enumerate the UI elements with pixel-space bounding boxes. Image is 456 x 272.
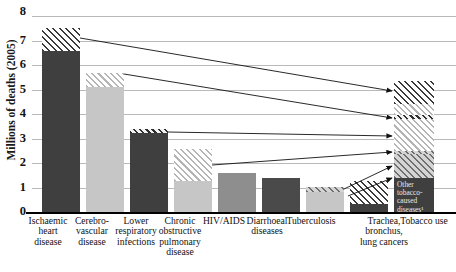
tobacco-segment-other: Other tobacco- caused diseases¹ (394, 178, 434, 214)
bar-segment-base (306, 192, 344, 213)
label-line: diseases (230, 226, 304, 236)
bar-hiv-aids (218, 173, 256, 213)
y-tick-8: 8 (8, 5, 26, 17)
bar-cerebrovascular-disease (86, 73, 124, 213)
bar-lower-respiratory-infections (130, 131, 168, 213)
bar-chronic-obstructive-pulmonary-disease (174, 149, 212, 213)
bar-ischaemic-heart-disease (42, 28, 80, 213)
y-axis-title: Millions of deaths (2005) (5, 25, 17, 175)
bar-segment-tobacco (42, 28, 80, 51)
bar-tuberculosis (306, 187, 344, 213)
bar-segment-base (174, 181, 212, 213)
tobacco-segment-copd (394, 119, 434, 151)
bar-segment-tobacco (174, 149, 212, 181)
y-tick-4: 4 (8, 107, 26, 119)
bar-diarrhoeal-diseases (262, 178, 300, 214)
y-tick-1: 1 (8, 181, 26, 193)
bar-segment-base (262, 178, 300, 214)
bar-segment-base (86, 87, 124, 213)
y-tick-7: 7 (8, 34, 26, 46)
bar-trachea-bronchus-lung-cancers (350, 181, 388, 213)
bar-segment-base (218, 173, 256, 213)
y-tick-5: 5 (8, 83, 26, 95)
bar-segment-tobacco (350, 181, 388, 204)
tobacco-segment-trachea (394, 154, 434, 177)
label-line: lung cancers (346, 237, 422, 247)
bar-segment-tobacco (306, 187, 344, 192)
label-line: disease (144, 247, 216, 257)
tobacco-segment-lower-respiratory (394, 115, 434, 120)
x-axis-line (26, 212, 456, 214)
bar-tobacco-use: Other tobacco- caused diseases¹ (394, 81, 434, 213)
y-tick-6: 6 (8, 58, 26, 70)
category-label-tobacco-use: Tobacco use (390, 216, 456, 226)
gridline-8 (32, 16, 456, 17)
bar-segment-tobacco (86, 73, 124, 87)
label-line: Tuberculosis (272, 216, 350, 226)
bar-segment-base (42, 51, 80, 213)
plot-area: Other tobacco- caused diseases¹ (32, 0, 456, 213)
bar-segment-tobacco (130, 129, 168, 134)
y-tick-2: 2 (8, 156, 26, 168)
gridline-7 (32, 41, 456, 42)
tobacco-segment-cerebrovascular (394, 104, 434, 115)
y-tick-3: 3 (8, 132, 26, 144)
tobacco-segment-tuberculosis (394, 151, 434, 154)
category-label-tuberculosis: Tuberculosis (272, 216, 350, 226)
gridline-6 (32, 65, 456, 66)
chart-root: Millions of deaths (2005) 8 7 6 5 4 3 2 … (0, 0, 456, 272)
tobacco-segment-ischaemic (394, 81, 434, 104)
label-line: Tobacco use (390, 216, 456, 226)
bar-segment-base (130, 133, 168, 213)
tobacco-inner-note: Other tobacco- caused diseases¹ (397, 181, 432, 215)
